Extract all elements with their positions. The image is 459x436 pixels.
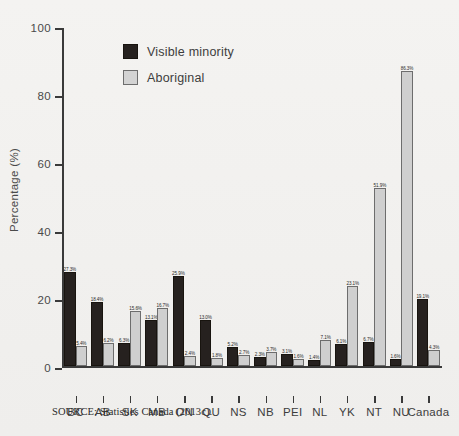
y-tick-mark	[55, 300, 62, 302]
y-tick-mark	[55, 232, 62, 234]
y-tick-label: 100	[31, 22, 51, 34]
chart-figure: Percentage (%) 020406080100 27.3%5.4%18.…	[0, 0, 459, 436]
bar-on-visible-minority[interactable]: 25.9%	[173, 276, 185, 366]
y-axis-label: Percentage (%)	[8, 148, 20, 232]
bar-canada-visible-minority[interactable]: 19.1%	[417, 299, 429, 366]
y-tick-label: 40	[37, 226, 51, 238]
x-tick-mark	[130, 396, 131, 403]
bar-value-label: 4.3%	[429, 345, 439, 350]
bar-ab-visible-minority[interactable]: 18.4%	[91, 302, 103, 367]
x-tick-label-nt: NT	[366, 406, 382, 418]
x-tick-mark	[76, 396, 77, 403]
bar-group-nt: 6.7%51.9%	[361, 28, 388, 366]
x-tick-label-nb: NB	[257, 406, 274, 418]
legend-item-visible-minority: Visible minority	[123, 44, 234, 59]
bar-yk-visible-minority[interactable]: 6.1%	[335, 344, 347, 367]
source-note: SOURCE: Statistics Canada (2013c).	[52, 406, 212, 417]
bar-value-label: 1.4%	[309, 355, 319, 360]
bar-value-label: 2.7%	[239, 350, 249, 355]
x-tick-mark	[211, 396, 212, 403]
x-tick-mark	[157, 396, 158, 403]
bar-nl-aboriginal[interactable]: 7.1%	[320, 340, 332, 366]
bar-nb-aboriginal[interactable]: 3.7%	[266, 352, 278, 367]
bar-nb-visible-minority[interactable]: 2.3%	[254, 357, 266, 367]
y-tick-mark	[55, 28, 62, 30]
bar-value-label: 19.1%	[416, 294, 429, 299]
bar-bc-visible-minority[interactable]: 27.3%	[64, 272, 76, 367]
bar-mb-aboriginal[interactable]: 16.7%	[157, 308, 169, 367]
bar-canada-aboriginal[interactable]: 4.3%	[428, 350, 440, 367]
x-tick-mark	[347, 396, 348, 403]
legend-label-visible-minority: Visible minority	[147, 45, 234, 59]
bar-ns-aboriginal[interactable]: 2.7%	[238, 355, 250, 366]
bar-value-label: 15.6%	[129, 306, 142, 311]
bar-group-yk: 6.1%23.1%	[333, 28, 360, 366]
bar-pei-visible-minority[interactable]: 3.1%	[281, 354, 293, 367]
bar-ns-visible-minority[interactable]: 5.2%	[227, 347, 239, 367]
bar-group-nl: 1.4%7.1%	[306, 28, 333, 366]
bar-sk-visible-minority[interactable]: 6.3%	[118, 343, 130, 366]
bar-qu-aboriginal[interactable]: 1.8%	[211, 358, 223, 366]
bar-nu-aboriginal[interactable]: 86.3%	[401, 71, 413, 366]
bar-pei-aboriginal[interactable]: 1.6%	[293, 359, 305, 366]
bar-nt-aboriginal[interactable]: 51.9%	[374, 188, 386, 366]
bar-value-label: 27.3%	[64, 267, 77, 272]
bar-value-label: 25.9%	[172, 271, 185, 276]
y-tick-mark	[55, 368, 62, 370]
y-tick-label: 20	[37, 294, 51, 306]
dark-swatch-icon	[123, 44, 138, 59]
bar-value-label: 6.2%	[103, 338, 113, 343]
x-tick-label-pei: PEI	[283, 406, 302, 418]
bar-bc-aboriginal[interactable]: 5.4%	[76, 346, 88, 366]
legend-item-aboriginal: Aboriginal	[123, 70, 234, 85]
bar-ab-aboriginal[interactable]: 6.2%	[103, 343, 115, 366]
bar-value-label: 2.3%	[255, 352, 265, 357]
bar-value-label: 13.0%	[199, 315, 212, 320]
bar-on-aboriginal[interactable]: 2.4%	[184, 356, 196, 366]
chart-legend: Visible minority Aboriginal	[123, 44, 234, 96]
bar-group-nu: 1.6%86.3%	[388, 28, 415, 366]
bar-value-label: 7.1%	[321, 335, 331, 340]
x-tick-mark	[266, 396, 267, 403]
bar-mb-visible-minority[interactable]: 13.1%	[145, 320, 157, 367]
bar-value-label: 1.6%	[390, 354, 400, 359]
bar-value-label: 6.7%	[363, 337, 373, 342]
x-tick-mark	[293, 396, 294, 403]
plot-area: 020406080100 27.3%5.4%18.4%6.2%6.3%15.6%…	[62, 28, 442, 368]
bar-value-label: 86.3%	[401, 66, 414, 71]
bar-value-label: 3.7%	[266, 347, 276, 352]
x-tick-mark	[428, 396, 429, 403]
bar-sk-aboriginal[interactable]: 15.6%	[130, 311, 142, 366]
bar-group-ab: 18.4%6.2%	[89, 28, 116, 366]
bar-value-label: 6.1%	[336, 339, 346, 344]
bar-value-label: 2.4%	[185, 351, 195, 356]
bar-group-canada: 19.1%4.3%	[415, 28, 442, 366]
y-tick-label: 0	[44, 362, 51, 374]
x-tick-mark	[401, 396, 402, 403]
bar-nl-visible-minority[interactable]: 1.4%	[308, 360, 320, 367]
bar-value-label: 13.1%	[145, 315, 158, 320]
bar-qu-visible-minority[interactable]: 13.0%	[200, 320, 212, 366]
y-tick-mark	[55, 164, 62, 166]
x-axis-line	[62, 366, 442, 368]
x-tick-mark	[374, 396, 375, 403]
bar-series-container: 27.3%5.4%18.4%6.2%6.3%15.6%13.1%16.7%25.…	[62, 28, 442, 366]
bar-nt-visible-minority[interactable]: 6.7%	[363, 342, 375, 367]
light-swatch-icon	[123, 70, 138, 85]
bar-group-bc: 27.3%5.4%	[62, 28, 89, 366]
bar-value-label: 1.8%	[212, 353, 222, 358]
bar-nu-visible-minority[interactable]: 1.6%	[390, 359, 402, 366]
x-tick-mark	[320, 396, 321, 403]
x-tick-label-yk: YK	[339, 406, 355, 418]
bar-value-label: 23.1%	[346, 281, 359, 286]
bar-value-label: 5.2%	[228, 342, 238, 347]
x-tick-mark	[238, 396, 239, 403]
x-tick-label-nl: NL	[312, 406, 327, 418]
bar-group-pei: 3.1%1.6%	[279, 28, 306, 366]
bar-group-nb: 2.3%3.7%	[252, 28, 279, 366]
y-tick-mark	[55, 96, 62, 98]
x-tick-label-ns: NS	[230, 406, 247, 418]
bar-yk-aboriginal[interactable]: 23.1%	[347, 286, 359, 367]
bar-value-label: 3.1%	[282, 349, 292, 354]
x-tick-mark	[103, 396, 104, 403]
